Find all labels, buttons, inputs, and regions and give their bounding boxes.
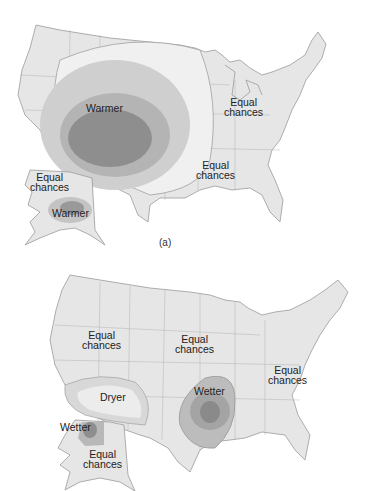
label-equal-chances-central: Equal chances (175, 334, 214, 354)
us-map-b (0, 250, 376, 491)
label-warmer-alaska: Warmer (52, 208, 89, 218)
label-warmer-main: Warmer (86, 103, 123, 113)
label-equal-chances-northwest: Equal chances (82, 330, 121, 350)
label-wetter-south: Wetter (194, 386, 225, 396)
temperature-outlook-map: Warmer Equal chances Equal chances Equal… (0, 0, 376, 250)
label-equal-chances-alaska-b: Equal chances (83, 449, 122, 469)
label-equal-chances-alaska: Equal chances (30, 172, 69, 192)
caption-a: (a) (159, 237, 171, 248)
label-equal-chances-southeast: Equal chances (196, 160, 235, 180)
label-dryer: Dryer (100, 392, 126, 402)
label-equal-chances-east: Equal chances (268, 365, 307, 385)
label-wetter-alaska: Wetter (60, 422, 91, 432)
label-equal-chances-northeast: Equal chances (224, 97, 263, 117)
precipitation-outlook-map: Equal chances Equal chances Equal chance… (0, 250, 376, 491)
